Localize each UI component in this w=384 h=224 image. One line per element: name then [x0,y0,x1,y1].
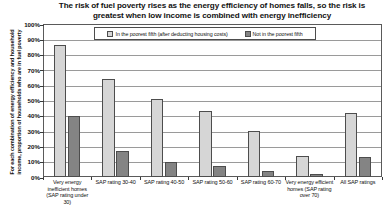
x-axis-category-label: SAP rating 30-40 [91,179,139,186]
bar [359,157,372,177]
bar [54,45,67,177]
bar [345,113,358,177]
x-axis-category-label: Very energy efficient homes (SAP rating … [285,179,333,199]
bar-group [188,24,236,177]
bar [262,171,275,177]
legend-item[interactable]: Not in the poorest fifth [245,31,303,37]
x-axis-category-label: SAP rating 60-70 [237,179,285,186]
x-axis-category-label: SAP rating 40-50 [140,179,188,186]
y-axis-tick-label: 50% [0,97,40,104]
bar [248,131,261,177]
x-axis-category-label: Very energy inefficient homes (SAP ratin… [43,179,91,205]
y-axis-tick-label: 0% [0,174,40,181]
x-axis-category-labels: Very energy inefficient homes (SAP ratin… [43,179,382,224]
y-axis-tick-label: 100% [0,21,40,28]
bar [296,156,309,177]
bar [310,174,323,177]
bar [165,162,178,177]
chart-legend: In the poorest fifth (after deducting ho… [94,27,316,40]
y-axis-tick-label: 40% [0,112,40,119]
bars-layer [43,24,382,177]
fuel-poverty-bar-chart: The risk of fuel poverty rises as the en… [0,0,384,224]
y-axis-tick-label: 10% [0,158,40,165]
bar [68,116,81,177]
y-axis-tick-labels: 0%10%20%30%40%50%60%70%80%90%100% [0,24,40,177]
x-axis-tick-mark [382,177,383,180]
bar [151,99,164,177]
legend-swatch-icon [245,31,251,37]
chart-title: The risk of fuel poverty rises as the en… [44,1,380,22]
y-axis-tick-label: 60% [0,82,40,89]
x-axis-category-label: All SAP ratings [334,179,382,186]
legend-label: Not in the poorest fifth [253,31,303,37]
y-axis-tick-label: 20% [0,143,40,150]
bar-group [334,24,382,177]
bar [102,79,115,177]
legend-item[interactable]: In the poorest fifth (after deducting ho… [107,31,227,37]
bar [116,151,129,177]
y-axis-tick-label: 70% [0,67,40,74]
y-axis-tick-label: 30% [0,128,40,135]
bar-group [43,24,91,177]
legend-swatch-icon [107,31,113,37]
bar [213,166,226,177]
x-axis-category-label: SAP rating 50-60 [188,179,236,186]
bar-group [285,24,333,177]
legend-label: In the poorest fifth (after deducting ho… [115,31,227,37]
bar-group [91,24,139,177]
bar-group [237,24,285,177]
bar-group [140,24,188,177]
y-axis-tick-label: 80% [0,51,40,58]
bar [199,111,212,177]
y-axis-tick-label: 90% [0,36,40,43]
